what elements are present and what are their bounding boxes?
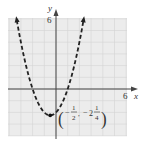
y-axis-arrow-icon bbox=[54, 9, 59, 16]
x-axis-label: x bbox=[133, 91, 138, 101]
svg-text:(: ( bbox=[58, 109, 64, 131]
vertex-point bbox=[48, 113, 52, 117]
y-axis-label: y bbox=[47, 3, 52, 13]
svg-text:1: 1 bbox=[72, 104, 76, 112]
svg-text:−: − bbox=[65, 108, 70, 117]
svg-text:1: 1 bbox=[95, 104, 99, 112]
svg-text:2: 2 bbox=[72, 114, 76, 122]
svg-text:4: 4 bbox=[95, 114, 99, 122]
parabola-graph: y 6 6 x ( − 1 2 , − 2 1 4 ) bbox=[0, 0, 149, 143]
x-tick-6: 6 bbox=[123, 91, 128, 101]
svg-text:2: 2 bbox=[89, 109, 93, 118]
svg-text:): ) bbox=[101, 109, 107, 131]
svg-text:−: − bbox=[83, 108, 88, 117]
y-tick-6: 6 bbox=[47, 15, 52, 25]
svg-text:,: , bbox=[78, 110, 80, 118]
